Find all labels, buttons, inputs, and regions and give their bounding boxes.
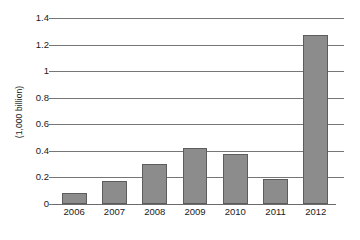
bar-2011 [263, 179, 288, 204]
y-axis-tick-right [336, 98, 344, 99]
y-axis-tick-right [336, 45, 344, 46]
bar-chart-figure: (1,000 billion) 00.20.40.60.811.21.4 200… [0, 0, 360, 240]
y-axis-tick-label: 0.8 [36, 93, 49, 103]
y-axis-tick-right [336, 18, 344, 19]
y-axis-tick-label: 0.2 [36, 172, 49, 182]
x-axis-tick-label: 2008 [135, 207, 175, 217]
bar-2009 [183, 148, 208, 204]
bar-2006 [62, 193, 87, 204]
x-axis-tick-label: 2011 [255, 207, 295, 217]
y-axis-tick-right [336, 177, 344, 178]
x-axis-tick-label: 2007 [94, 207, 134, 217]
bars-layer [54, 18, 336, 204]
x-axis-baseline [54, 204, 336, 205]
y-axis-tick-right [336, 71, 344, 72]
y-axis-tick-label: 1.2 [36, 40, 49, 50]
x-axis-tick-label: 2009 [175, 207, 215, 217]
bar-2012 [303, 35, 328, 204]
bar-2007 [102, 181, 127, 204]
y-axis-title: (1,000 billion) [14, 52, 24, 172]
plot-area [54, 18, 336, 204]
x-axis-tick-label: 2006 [54, 207, 94, 217]
bar-2008 [142, 164, 167, 204]
y-axis-tick-label: 0.4 [36, 146, 49, 156]
y-axis-tick-label: 0.6 [36, 119, 49, 129]
x-axis-tick-label: 2010 [215, 207, 255, 217]
x-axis-tick-label: 2012 [296, 207, 336, 217]
bar-2010 [223, 154, 248, 204]
y-axis-tick-right [336, 151, 344, 152]
y-axis-tick-right [336, 124, 344, 125]
y-axis-tick-left [49, 204, 54, 205]
y-axis-tick-label: 1.4 [36, 13, 49, 23]
x-axis-tick-labels: 2006200720082009201020112012 [54, 207, 336, 223]
